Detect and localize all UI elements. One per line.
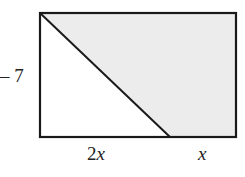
bottom-left-segment-label: 2x [87,143,106,164]
shaded-region [40,13,236,137]
bottom-right-segment-label: x [197,143,207,164]
left-side-label: – 7 [0,65,24,86]
diagram-canvas: – 7 2x x [0,0,245,177]
